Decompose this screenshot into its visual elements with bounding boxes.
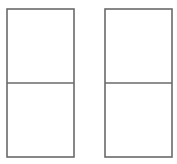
right-rectangle-bottom-cell [106,84,171,156]
right-rectangle-top-cell [106,10,171,83]
right-rectangle-group [105,9,172,157]
left-rectangle-bottom-cell [8,84,73,156]
left-rectangle-group [7,9,74,157]
two-rectangles-diagram [0,0,177,164]
left-rectangle-top-cell [8,10,73,83]
figure-canvas: Two rectangles each divided into two equ… [0,0,177,164]
